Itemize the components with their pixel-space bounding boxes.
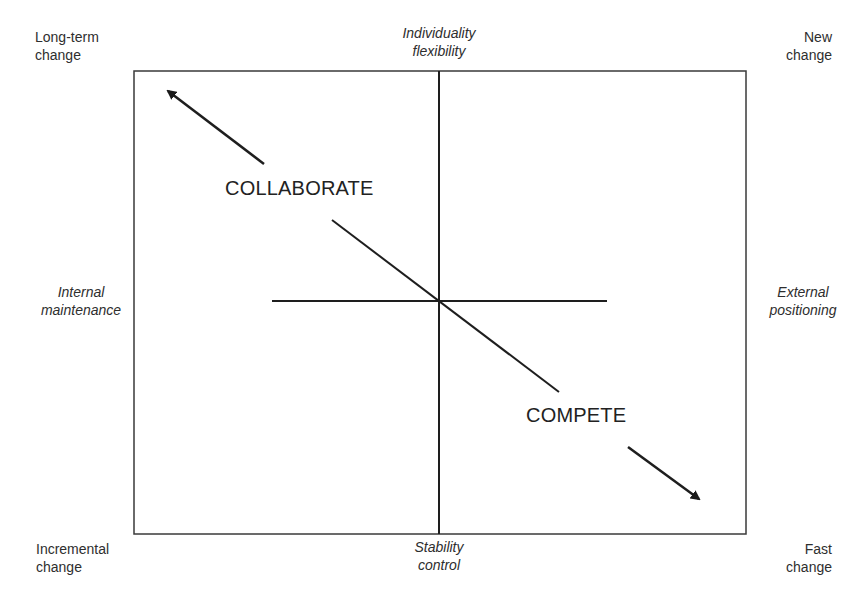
axis-label-top: Individuality flexibility (379, 24, 499, 60)
axis-label-left: Internal maintenance (26, 283, 136, 319)
compete-arrow (628, 447, 699, 499)
axis-label-bottom: Stability control (379, 538, 499, 574)
corner-label-bottom-left: Incremental change (36, 540, 109, 576)
compete-label: COMPETE (526, 403, 626, 427)
corner-label-bottom-right: Fast change (786, 540, 832, 576)
diagonal-line (332, 220, 559, 392)
collaborate-label: COLLABORATE (225, 176, 374, 200)
corner-label-top-right: New change (786, 28, 832, 64)
corner-label-top-left: Long-term change (35, 28, 99, 64)
axis-label-right: External positioning (743, 283, 863, 319)
collaborate-arrow (168, 91, 264, 164)
